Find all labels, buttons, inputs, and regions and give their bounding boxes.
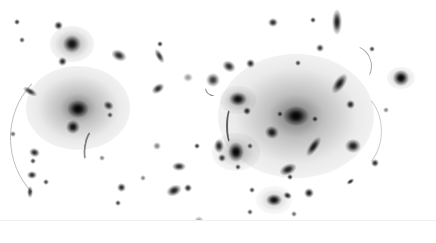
galaxy xyxy=(312,116,317,121)
lensing-arc xyxy=(226,108,236,144)
galaxy xyxy=(54,21,63,30)
cluster-halo xyxy=(220,86,256,115)
cluster-halo xyxy=(26,66,130,149)
galaxy xyxy=(10,131,15,136)
galaxy xyxy=(115,200,120,205)
galaxy xyxy=(266,194,282,207)
galaxy xyxy=(328,71,350,96)
galaxy xyxy=(101,98,115,111)
galaxy xyxy=(58,57,67,66)
galaxy xyxy=(281,191,292,201)
galaxy xyxy=(345,177,355,187)
galaxy xyxy=(229,92,247,106)
cluster-halo xyxy=(50,26,94,61)
galaxy xyxy=(164,182,183,199)
galaxy xyxy=(295,60,300,65)
cluster-halo xyxy=(212,133,260,171)
galaxy xyxy=(43,179,48,184)
galaxy xyxy=(117,183,126,192)
galaxy xyxy=(214,139,225,153)
galaxy xyxy=(283,106,308,126)
galaxy xyxy=(63,35,81,53)
galaxy xyxy=(150,80,167,96)
galaxy xyxy=(153,47,167,65)
cluster-halo xyxy=(387,67,415,89)
galaxy xyxy=(153,142,160,149)
galaxy xyxy=(235,164,240,169)
galaxy xyxy=(310,17,315,22)
galaxy xyxy=(393,70,409,86)
galaxy xyxy=(277,111,282,116)
galaxy xyxy=(369,46,374,51)
lensing-arc xyxy=(202,77,225,100)
galaxy xyxy=(21,85,39,99)
galaxy xyxy=(19,37,24,42)
galaxy xyxy=(304,188,315,199)
galaxy xyxy=(27,171,38,178)
galaxy xyxy=(278,160,299,177)
galaxy xyxy=(332,9,343,34)
galaxy xyxy=(243,107,250,114)
galaxy xyxy=(247,143,252,148)
galaxy xyxy=(27,146,40,158)
galaxy xyxy=(99,155,104,160)
lensing-arc xyxy=(81,129,98,163)
galaxy xyxy=(228,142,244,162)
lensing-arc xyxy=(324,39,378,93)
galaxy xyxy=(157,41,162,46)
galaxy xyxy=(345,139,361,153)
galaxy xyxy=(194,143,199,148)
galaxy xyxy=(249,187,254,192)
galaxy xyxy=(220,58,238,75)
galaxy-cluster-image xyxy=(0,0,436,243)
galaxy xyxy=(107,112,112,117)
galaxy xyxy=(247,209,252,214)
galaxy xyxy=(383,107,388,112)
galaxy xyxy=(346,100,355,109)
galaxy xyxy=(66,120,80,134)
galaxy xyxy=(172,162,186,171)
galaxy xyxy=(30,158,35,163)
cluster-halo xyxy=(256,186,292,215)
galaxy xyxy=(268,18,279,27)
image-bottom-edge xyxy=(0,220,436,243)
galaxy xyxy=(14,19,19,24)
galaxy xyxy=(140,175,145,180)
galaxy xyxy=(184,184,191,191)
galaxy xyxy=(316,44,323,51)
galaxy xyxy=(291,211,296,216)
galaxy xyxy=(183,73,194,82)
galaxy xyxy=(27,186,32,199)
galaxy xyxy=(109,47,128,64)
galaxy xyxy=(218,154,225,161)
galaxy xyxy=(263,124,281,141)
galaxy xyxy=(287,174,292,179)
lensing-arc xyxy=(10,62,152,214)
lensing-arc xyxy=(320,90,382,172)
galaxy xyxy=(246,59,255,68)
galaxy xyxy=(67,100,89,118)
galaxy xyxy=(303,135,324,159)
cluster-halo xyxy=(218,54,374,179)
galaxy xyxy=(206,73,220,87)
galaxy xyxy=(371,159,378,166)
